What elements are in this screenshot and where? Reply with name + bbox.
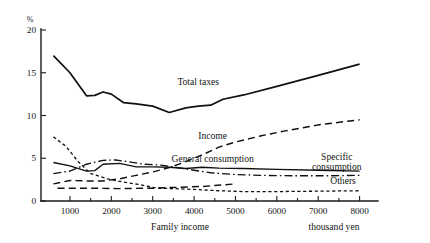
x-tick-label-3000: 3000 bbox=[144, 206, 163, 216]
x-tick-label-2000: 2000 bbox=[102, 206, 121, 216]
annotation-others: Others bbox=[330, 175, 356, 186]
annotation-consumption: consumption bbox=[312, 161, 362, 172]
annotation-income: Income bbox=[198, 130, 227, 141]
y-tick-label-20: 20 bbox=[27, 25, 37, 35]
x-tick-label-6000: 6000 bbox=[268, 206, 287, 216]
y-axis-unit-label: % bbox=[27, 15, 34, 24]
annotation-general-consumption: General consumption bbox=[172, 153, 255, 164]
x-tick-label-5000: 5000 bbox=[226, 206, 245, 216]
x-tick-label-1000: 1000 bbox=[61, 206, 80, 216]
y-tick-label-5: 5 bbox=[31, 153, 36, 163]
y-tick-label-15: 15 bbox=[27, 68, 37, 78]
y-tick-label-0: 0 bbox=[31, 196, 36, 206]
series-line-others-baseline bbox=[58, 184, 236, 189]
chart-figure: 0510152010002000300040005000600070008000… bbox=[0, 0, 430, 243]
x-tick-label-4000: 4000 bbox=[185, 206, 204, 216]
x-tick-label-8000: 8000 bbox=[350, 206, 369, 216]
y-tick-label-10: 10 bbox=[27, 111, 37, 121]
x-axis-title: Family income bbox=[151, 221, 209, 232]
tick-labels-group: 0510152010002000300040005000600070008000 bbox=[27, 25, 369, 216]
annotation-total-taxes: Total taxes bbox=[177, 76, 219, 87]
x-tick-label-7000: 7000 bbox=[309, 206, 328, 216]
x-axis-unit-label: thousand yen bbox=[309, 221, 360, 232]
line-chart-canvas: 0510152010002000300040005000600070008000… bbox=[0, 0, 430, 243]
